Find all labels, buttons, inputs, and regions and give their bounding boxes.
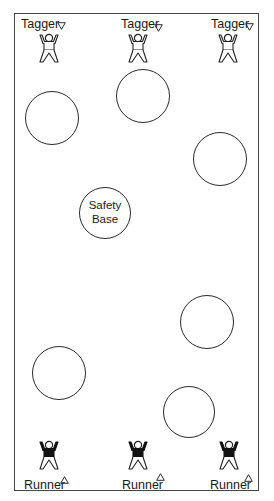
runner-figure-icon — [217, 440, 241, 470]
tagger-label: Tagger — [211, 17, 249, 31]
down-triangle-icon — [245, 23, 254, 31]
safety-base-circle: Safety Base — [79, 187, 131, 239]
tagger-figure-icon — [216, 33, 240, 63]
circle-zone-5 — [32, 346, 86, 400]
up-triangle-icon — [60, 476, 69, 484]
runner-figure-icon — [126, 440, 150, 470]
tagger-label: Tagger — [21, 17, 59, 31]
up-triangle-icon — [156, 473, 165, 481]
runner-figure-icon — [37, 440, 61, 470]
safety-base-label-line-1: Safety — [80, 198, 130, 212]
circle-zone-2 — [116, 69, 170, 123]
up-triangle-icon — [244, 474, 253, 482]
circle-zone-6 — [163, 386, 215, 438]
circle-zone-1 — [25, 91, 79, 145]
down-triangle-icon — [154, 24, 163, 32]
circle-zone-3 — [193, 132, 247, 186]
circle-zone-4 — [180, 295, 234, 349]
tagger-figure-icon — [37, 33, 61, 63]
down-triangle-icon — [57, 22, 66, 30]
safety-base-label-line-2: Base — [80, 212, 130, 226]
runner-label: Runner — [24, 478, 65, 492]
tagger-figure-icon — [126, 33, 150, 63]
